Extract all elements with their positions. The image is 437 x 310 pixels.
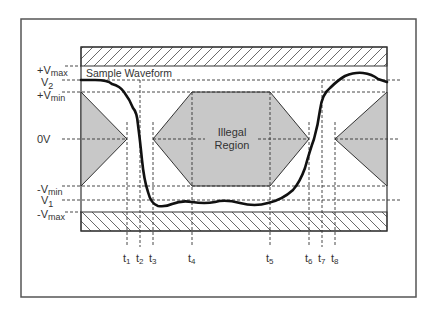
t6-label: t6 bbox=[305, 252, 313, 266]
upper-forbidden-band bbox=[81, 47, 387, 66]
illegal-region-label-line1: Illegal bbox=[218, 126, 247, 138]
time-labels: t1 t2 t3 t4 t5 t6 t7 t8 bbox=[123, 252, 339, 266]
t1-label: t1 bbox=[123, 252, 131, 266]
t7-label: t7 bbox=[318, 252, 326, 266]
eye-diagram: Sample Waveform Illegal Region +Vmax V2 … bbox=[0, 0, 437, 310]
zero-volt-label: 0V bbox=[37, 133, 51, 145]
illegal-region-label-line2: Region bbox=[215, 139, 250, 151]
t2-label: t2 bbox=[136, 252, 144, 266]
t8-label: t8 bbox=[331, 252, 339, 266]
vmax-neg-label: -Vmax bbox=[37, 208, 66, 222]
t3-label: t3 bbox=[149, 252, 157, 266]
t4-label: t4 bbox=[188, 252, 196, 266]
vmin-pos-label: +Vmin bbox=[37, 89, 65, 103]
voltage-labels: +Vmax V2 +Vmin 0V -Vmin V1 -Vmax bbox=[37, 64, 68, 222]
t5-label: t5 bbox=[266, 252, 274, 266]
waveform-label: Sample Waveform bbox=[86, 67, 172, 79]
